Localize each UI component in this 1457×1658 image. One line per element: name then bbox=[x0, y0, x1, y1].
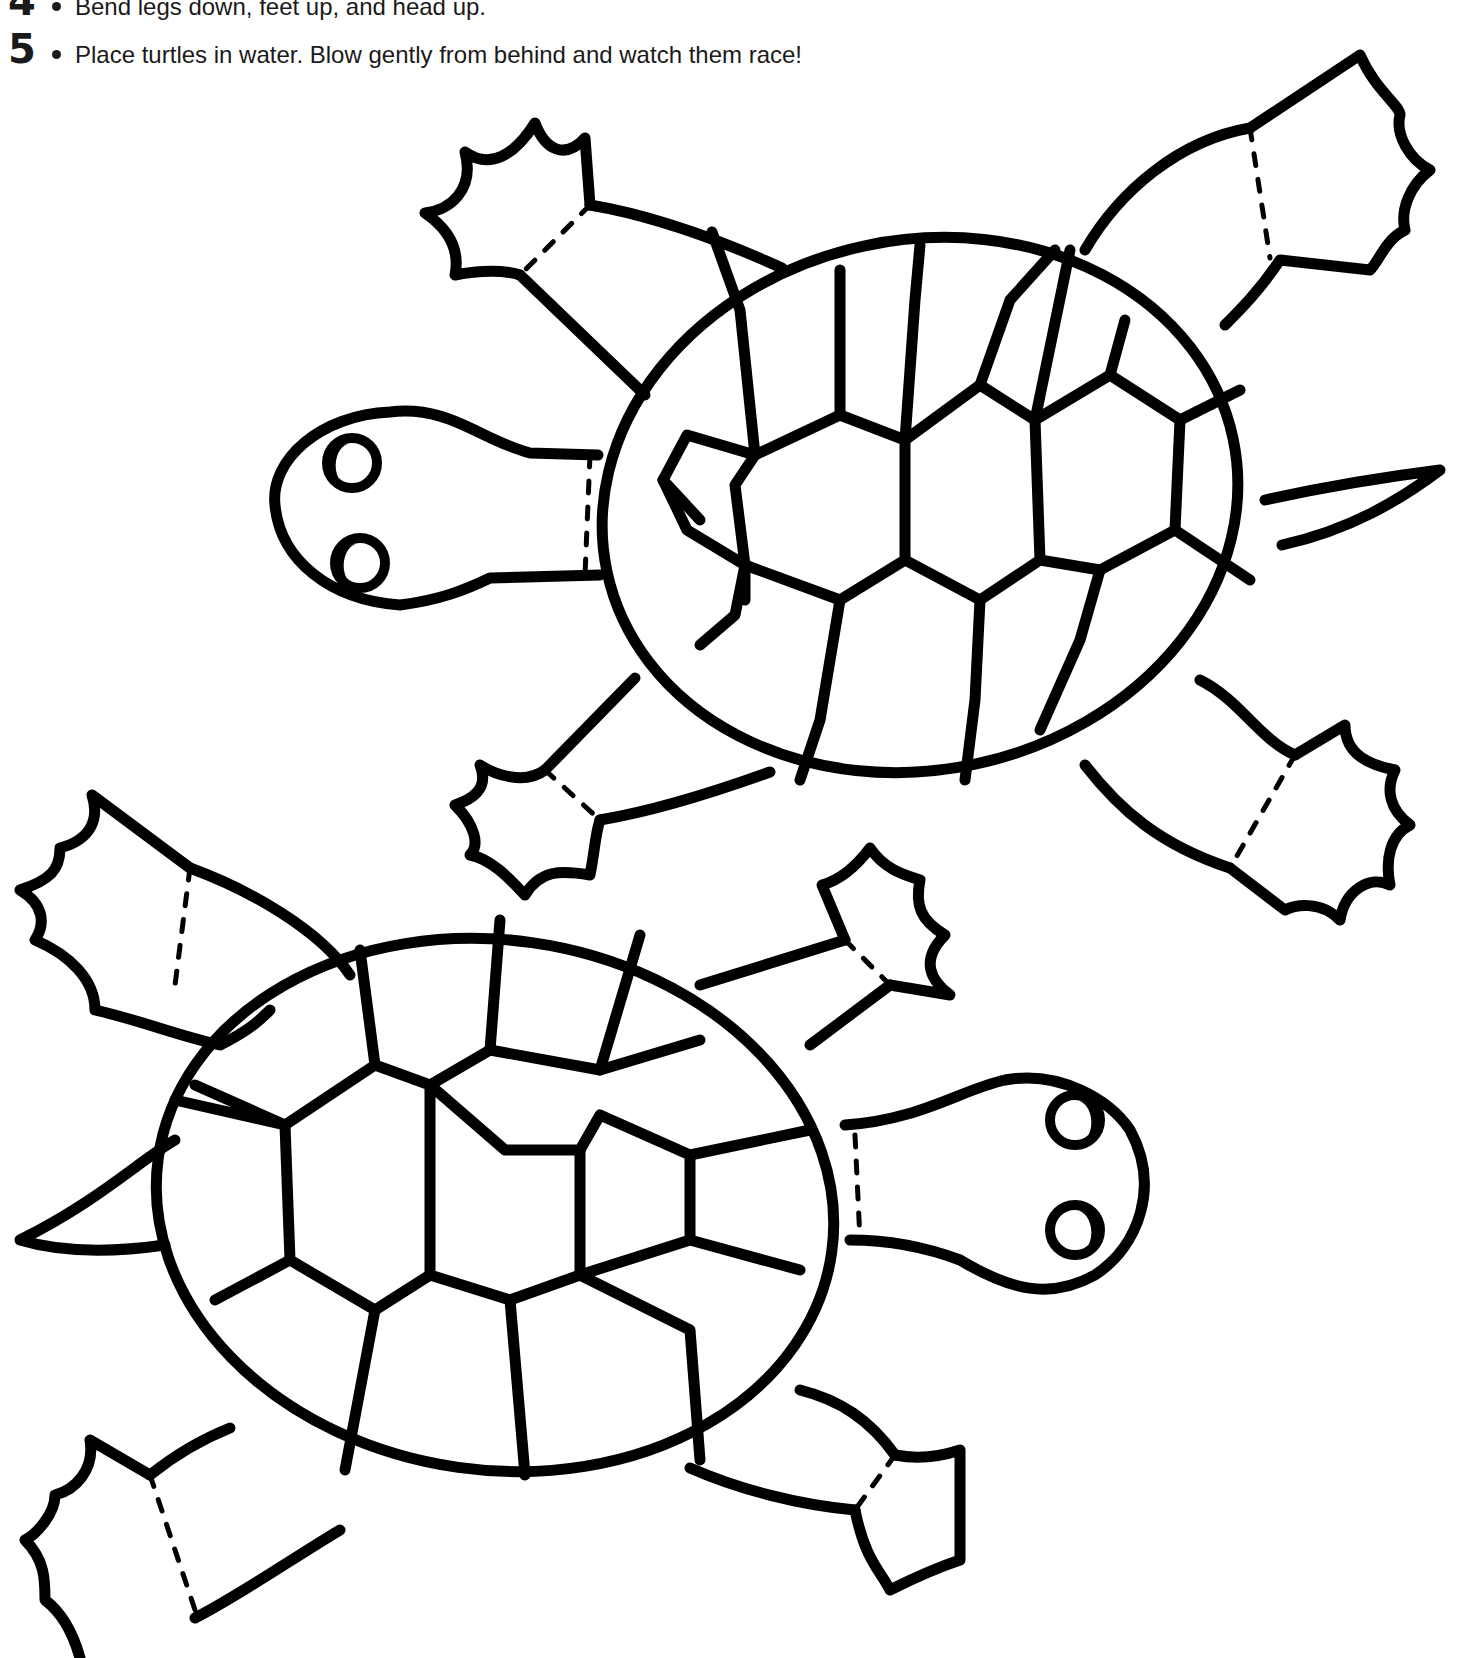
shell-icon bbox=[121, 895, 868, 1514]
tail-icon bbox=[1265, 470, 1440, 545]
head-icon bbox=[845, 1078, 1144, 1289]
turtle-bottom bbox=[20, 795, 1144, 1658]
leg-icon bbox=[425, 123, 782, 395]
head-icon bbox=[275, 411, 600, 605]
leg-icon bbox=[1085, 55, 1430, 325]
leg-icon bbox=[700, 848, 950, 1045]
leg-icon bbox=[690, 1390, 960, 1590]
leg-icon bbox=[20, 795, 350, 1045]
leg-icon bbox=[455, 678, 770, 895]
leg-icon bbox=[1085, 680, 1410, 920]
turtle-top bbox=[275, 55, 1440, 920]
leg-icon bbox=[25, 1428, 340, 1658]
turtles-illustration bbox=[0, 0, 1457, 1658]
shell-icon bbox=[552, 179, 1288, 830]
